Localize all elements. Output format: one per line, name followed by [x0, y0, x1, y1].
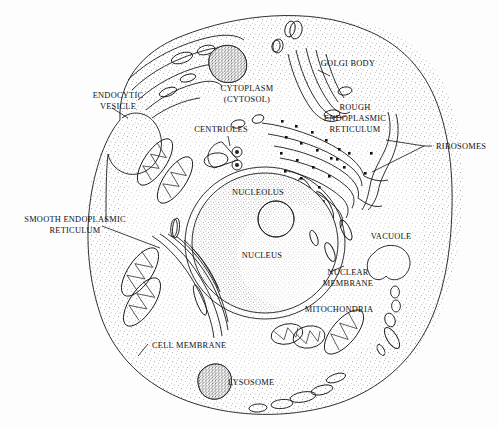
- label-smooth-er-line2: RETICULUM: [49, 226, 100, 235]
- lysosome: [198, 364, 232, 399]
- label-lysosome: LYSOSOME: [228, 378, 274, 387]
- label-cell-membrane: CELL MEMBRANE: [152, 341, 226, 350]
- label-smooth-er-line1: SMOOTH ENDOPLASMIC: [24, 215, 126, 224]
- label-golgi-body: GOLGI BODY: [321, 59, 375, 68]
- animal-cell-diagram: ENDOCYTIC VESICLE CYTOPLASM (CYTOSOL) GO…: [0, 0, 498, 429]
- label-endocytic-vesicle-line2: VESICLE: [100, 102, 136, 111]
- label-nucleolus: NUCLEOLUS: [232, 188, 284, 197]
- cytoplasm-vesicle: [209, 45, 247, 82]
- label-centrioles: CENTRIOLES: [194, 125, 248, 134]
- label-mitochondria: MITOCHONDRIA: [305, 305, 373, 314]
- label-rough-er-line2: ENDOPLASMIC: [324, 114, 386, 123]
- label-rough-er-line1: ROUGH: [339, 103, 370, 112]
- label-nuclear-membrane-line1: NUCLEAR: [327, 268, 368, 277]
- nucleolus: [258, 201, 294, 237]
- label-cytoplasm-line1: CYTOPLASM: [221, 84, 274, 93]
- label-cytoplasm-line2: (CYTOSOL): [224, 95, 270, 104]
- label-endocytic-vesicle-line1: ENDOCYTIC: [93, 91, 144, 100]
- cell-diagram-page: ENDOCYTIC VESICLE CYTOPLASM (CYTOSOL) GO…: [0, 0, 498, 429]
- label-rough-er-line3: RETICULUM: [329, 125, 380, 134]
- label-nuclear-membrane-line2: MEMBRANE: [323, 279, 373, 288]
- label-ribosomes: RIBOSOMES: [436, 142, 486, 151]
- label-vacuole: VACUOLE: [371, 232, 412, 241]
- label-nucleus: NUCLEUS: [242, 251, 282, 260]
